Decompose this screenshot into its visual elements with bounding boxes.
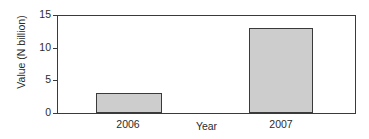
y-tick-mark-0 [53,113,58,114]
plot-area: 0 5 10 15 [57,15,356,113]
bar-2007 [249,28,313,113]
y-tick-label-10: 10 [27,41,51,53]
bar-chart-figure: Value (N billion) 0 5 10 15 2006 2007 Ye… [0,0,369,139]
x-axis-line [57,113,356,114]
plot-border-top [57,15,356,16]
y-tick-mark-10 [53,48,58,49]
y-tick-label-15: 15 [27,8,51,20]
y-axis-title-wrapper: Value (N billion) [11,30,27,114]
y-tick-mark-15 [53,15,58,16]
y-axis-line [57,15,58,114]
y-tick-label-0: 0 [27,106,51,118]
bar-2006 [96,93,162,113]
x-axis-title: Year [57,120,356,132]
plot-border-right [355,15,356,113]
y-tick-mark-5 [53,80,58,81]
y-tick-label-5: 5 [27,73,51,85]
